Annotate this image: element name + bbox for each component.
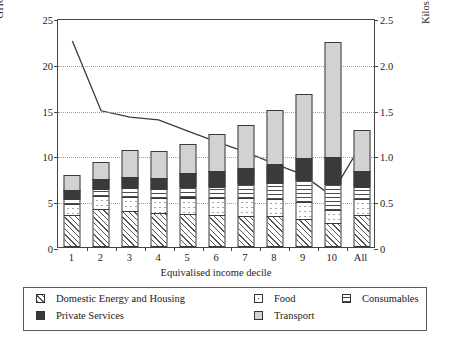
- bar-segment[interactable]: [295, 180, 312, 203]
- y-axis-left-tick-label: 25: [43, 15, 54, 26]
- bar-segment[interactable]: [93, 162, 110, 180]
- x-axis-title: Equivalised income decile: [57, 267, 375, 278]
- bar-segment[interactable]: [209, 215, 226, 247]
- bar-segment[interactable]: [324, 210, 341, 224]
- y-axis-right-tick: [374, 249, 378, 250]
- x-axis-tick-label: 5: [184, 252, 189, 263]
- stacked-bar[interactable]: [64, 175, 81, 247]
- legend-swatch: [254, 311, 263, 320]
- bar-segment[interactable]: [353, 199, 370, 215]
- bar-segment[interactable]: [266, 199, 283, 216]
- bar-segment[interactable]: [151, 198, 168, 214]
- y-axis-right-title-line2: Annual Income: [432, 0, 444, 24]
- bar-segment[interactable]: [180, 173, 197, 188]
- y-axis-left-tick: [54, 249, 58, 250]
- y-axis-left-tick: [54, 20, 58, 21]
- bar-segment[interactable]: [180, 214, 197, 247]
- bar-segment[interactable]: [295, 219, 312, 247]
- bar-segment[interactable]: [353, 171, 370, 187]
- stacked-bar[interactable]: [295, 94, 312, 247]
- y-axis-right-tick: [374, 112, 378, 113]
- x-axis-tick-label: 10: [326, 252, 337, 263]
- bar-segment[interactable]: [266, 110, 283, 165]
- bar-segment[interactable]: [295, 158, 312, 181]
- y-axis-right-tick: [374, 20, 378, 21]
- legend-item[interactable]: Transport: [254, 310, 314, 321]
- stacked-bar[interactable]: [324, 42, 341, 247]
- y-axis-right-tick-label: 1.0: [380, 152, 393, 163]
- stacked-bar[interactable]: [237, 125, 254, 247]
- stacked-bar[interactable]: [353, 130, 370, 247]
- bar-segment[interactable]: [64, 215, 81, 247]
- bar-segment[interactable]: [266, 216, 283, 247]
- stacked-bar[interactable]: [180, 144, 197, 247]
- bar-segment[interactable]: [237, 184, 254, 200]
- bar-segment[interactable]: [353, 215, 370, 247]
- bar-segment[interactable]: [151, 213, 168, 247]
- legend-item[interactable]: Food: [254, 293, 296, 304]
- y-axis-right-tick: [374, 157, 378, 158]
- y-axis-left-tick-label: 0: [48, 244, 53, 255]
- bar-segment[interactable]: [209, 187, 226, 200]
- bar-segment[interactable]: [209, 171, 226, 187]
- x-axis-tick: [231, 247, 232, 251]
- bar-segment[interactable]: [324, 184, 341, 211]
- stacked-bar[interactable]: [93, 162, 110, 247]
- plot-area: 051015202500.51.01.52.02.5: [57, 19, 375, 248]
- legend-label: Transport: [274, 310, 314, 321]
- x-axis-tick-label: 3: [127, 252, 132, 263]
- bar-segment[interactable]: [237, 168, 254, 184]
- legend-swatch: [342, 294, 351, 303]
- y-axis-right-tick-label: 2.5: [380, 15, 393, 26]
- x-axis-tick-label: 6: [213, 252, 218, 263]
- x-axis-tick: [145, 247, 146, 251]
- bar-segment[interactable]: [209, 134, 226, 172]
- y-axis-right-tick: [374, 66, 378, 67]
- bar-segment[interactable]: [324, 42, 341, 158]
- bar-segment[interactable]: [237, 198, 254, 216]
- x-axis-tick-label: All: [354, 252, 367, 263]
- bar-segment[interactable]: [237, 125, 254, 169]
- bar-segment[interactable]: [324, 223, 341, 247]
- x-axis-tick: [347, 247, 348, 251]
- legend-item[interactable]: Domestic Energy and Housing: [36, 293, 185, 304]
- stacked-bar[interactable]: [122, 150, 139, 247]
- bar-segment[interactable]: [180, 198, 197, 215]
- bar-segment[interactable]: [180, 144, 197, 173]
- bar-segment[interactable]: [324, 157, 341, 184]
- bar-segment[interactable]: [93, 209, 110, 247]
- stacked-bar[interactable]: [151, 151, 168, 247]
- stacked-bar[interactable]: [209, 134, 226, 247]
- y-axis-right-tick-label: 2.0: [380, 60, 393, 71]
- bar-segment[interactable]: [266, 183, 283, 200]
- legend-label: Domestic Energy and Housing: [56, 293, 185, 304]
- bar-segment[interactable]: [122, 211, 139, 247]
- bar-segment[interactable]: [122, 197, 139, 213]
- bar-segment[interactable]: [122, 150, 139, 178]
- y-axis-right-tick-label: 0.5: [380, 198, 393, 209]
- bar-segment[interactable]: [266, 165, 283, 184]
- bar-segment[interactable]: [353, 187, 370, 201]
- bar-segment[interactable]: [353, 130, 370, 172]
- bar-segment[interactable]: [295, 94, 312, 159]
- bar-segment[interactable]: [295, 202, 312, 219]
- y-axis-right-title: Kilos of GHG emission per £ of Gross Hou…: [420, 0, 444, 24]
- x-axis-tick: [174, 247, 175, 251]
- legend-swatch: [36, 311, 45, 320]
- x-axis-tick-label: 1: [69, 252, 74, 263]
- chart-legend: Domestic Energy and HousingFoodConsumabl…: [23, 287, 427, 331]
- y-axis-left-tick: [54, 112, 58, 113]
- bar-segment[interactable]: [64, 175, 81, 191]
- y-axis-right-tick-label: 1.5: [380, 106, 393, 117]
- bar-segment[interactable]: [93, 196, 110, 211]
- bar-segment[interactable]: [209, 198, 226, 215]
- legend-item[interactable]: Consumables: [342, 293, 419, 304]
- y-axis-left-tick-label: 15: [43, 106, 54, 117]
- bar-segment[interactable]: [237, 216, 254, 247]
- x-axis-tick-label: 2: [98, 252, 103, 263]
- legend-item[interactable]: Private Services: [36, 310, 124, 321]
- y-axis-right-title-line1: Kilos of GHG emission per £ of Gross Hou…: [420, 0, 432, 24]
- stacked-bar[interactable]: [266, 110, 283, 247]
- x-axis-tick-label: 9: [300, 252, 305, 263]
- bar-segment[interactable]: [151, 151, 168, 179]
